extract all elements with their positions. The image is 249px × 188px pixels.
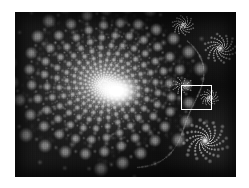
fractal-image-plate bbox=[15, 12, 236, 177]
figure-root bbox=[0, 0, 249, 188]
zoom-region-marker[interactable] bbox=[181, 85, 212, 110]
